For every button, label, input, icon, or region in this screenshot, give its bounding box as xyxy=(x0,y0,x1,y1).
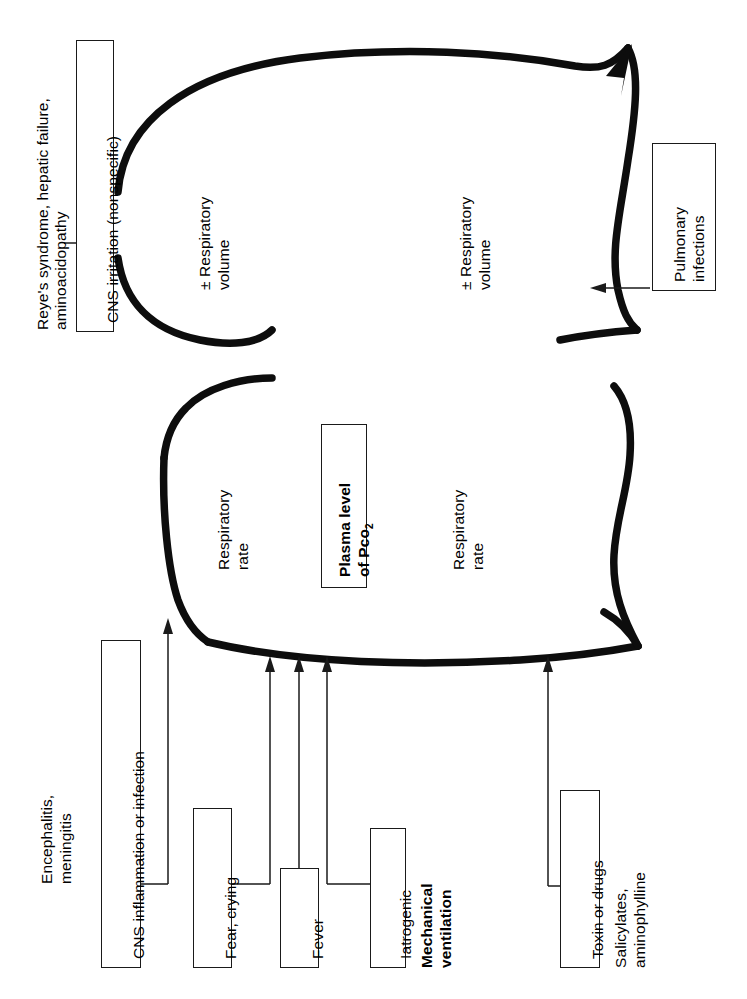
lower-loop-top-curve xyxy=(164,378,272,458)
upper-loop-inner-lower-curve xyxy=(118,258,272,343)
note-iatrogenic-line2: ventilation xyxy=(437,889,454,968)
box-fever-label: Fever xyxy=(309,919,326,959)
box-toxin-drugs-label: Toxin or drugs xyxy=(589,860,606,959)
upper-loop-outer-curve xyxy=(118,48,628,192)
arrow-iatrogenic xyxy=(322,656,372,884)
label-upper-left-line1: ± Respiratory xyxy=(196,197,213,290)
note-cns-irritation-line1: Reye's syndrome, hepatic failure, xyxy=(34,98,51,330)
figure-canvas: CNS irritation (nonspecific) Reye's synd… xyxy=(0,0,747,999)
lower-loop-left-curve xyxy=(164,458,208,642)
pco2-subscript: 2 xyxy=(364,523,375,529)
label-lower-right-line2: rate xyxy=(469,543,486,570)
box-cns-irritation-label: CNS irritation (nonspecific) xyxy=(104,136,121,323)
box-plasma-pco2-line2: of Pco2 xyxy=(355,523,375,577)
box-fear-crying[interactable]: Fear, crying xyxy=(193,808,232,968)
box-cns-inflammation[interactable]: CNS inflammation or infection xyxy=(101,640,141,968)
arrow-pulmonary-infections xyxy=(590,283,650,293)
label-upper-right-line2: volume xyxy=(476,239,493,290)
pco2-text: of Pco xyxy=(355,529,372,577)
label-upper-left-line2: volume xyxy=(215,239,232,290)
note-toxin-line1: Salicylates, xyxy=(612,888,629,968)
note-cns-inflammation-line1: Encephalitis, xyxy=(38,795,55,884)
box-fear-crying-label: Fear, crying xyxy=(222,877,239,959)
box-plasma-pco2-line1: Plasma level xyxy=(336,483,353,577)
arrow-fear-crying xyxy=(232,656,275,884)
box-toxin-drugs[interactable]: Toxin or drugs xyxy=(560,790,600,968)
upper-loop-bottom-curve xyxy=(560,330,637,340)
box-fever[interactable]: Fever xyxy=(280,868,319,968)
box-iatrogenic[interactable]: Iatrogenic xyxy=(370,828,406,968)
upper-loop-arrowhead xyxy=(606,44,632,96)
lower-loop-right-curve xyxy=(614,386,638,646)
upper-loop-right-curve xyxy=(615,48,637,330)
note-iatrogenic-line1: Mechanical xyxy=(418,883,435,968)
note-cns-inflammation-line2: meningitis xyxy=(57,813,74,884)
label-upper-right-line1: ± Respiratory xyxy=(457,197,474,290)
box-plasma-pco2[interactable]: Plasma level of Pco2 xyxy=(321,424,367,588)
note-cns-irritation-line2: aminoacidopathy xyxy=(52,211,69,330)
box-cns-irritation[interactable]: CNS irritation (nonspecific) xyxy=(76,40,114,332)
arrow-fever xyxy=(294,656,304,884)
box-pulmonary-infections-line2: infections xyxy=(690,216,707,282)
box-cns-inflammation-label: CNS inflammation or infection xyxy=(130,751,147,959)
box-pulmonary-infections[interactable]: Pulmonary infections xyxy=(652,143,716,291)
box-pulmonary-infections-line1: Pulmonary xyxy=(671,207,688,282)
note-toxin-line2: aminophylline xyxy=(631,872,648,968)
label-lower-left-line1: Respiratory xyxy=(215,490,232,570)
box-iatrogenic-label: Iatrogenic xyxy=(397,890,414,959)
label-lower-right-line1: Respiratory xyxy=(450,490,467,570)
label-lower-left-line2: rate xyxy=(234,543,251,570)
lower-loop-bottom-curve xyxy=(208,642,638,663)
lower-loop-tail xyxy=(604,612,638,646)
